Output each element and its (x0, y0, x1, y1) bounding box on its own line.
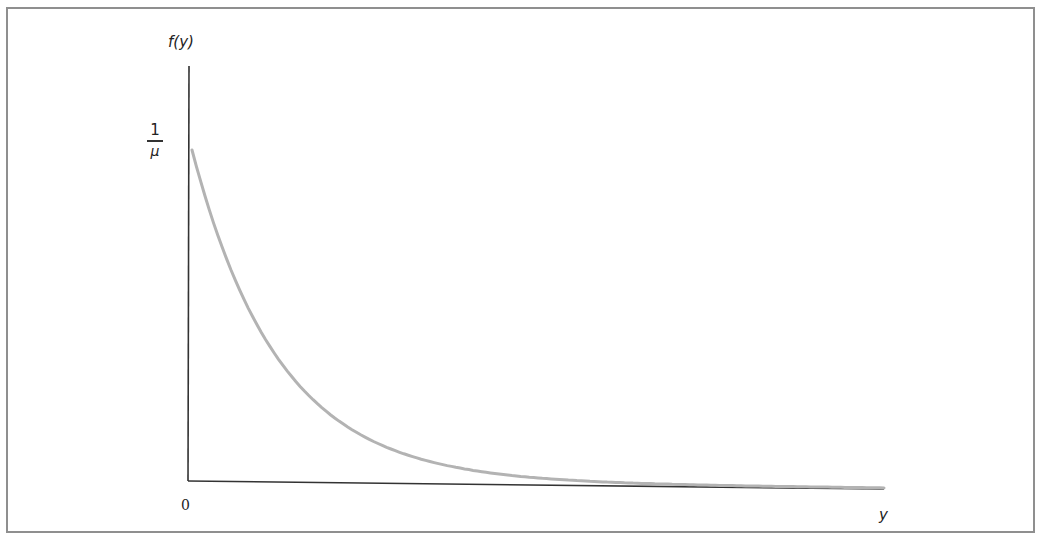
y-axis (188, 66, 189, 481)
fraction-bar (147, 140, 163, 142)
y-tick-numerator: 1 (146, 122, 164, 139)
y-tick-one-over-mu: 1 μ (146, 122, 164, 159)
x-tick-origin: 0 (181, 497, 190, 513)
y-tick-denominator: μ (146, 143, 164, 159)
density-curve (192, 150, 884, 488)
y-axis-label: f(y) (168, 33, 194, 51)
x-axis-label: y (879, 506, 888, 524)
plot-area (0, 0, 1043, 554)
